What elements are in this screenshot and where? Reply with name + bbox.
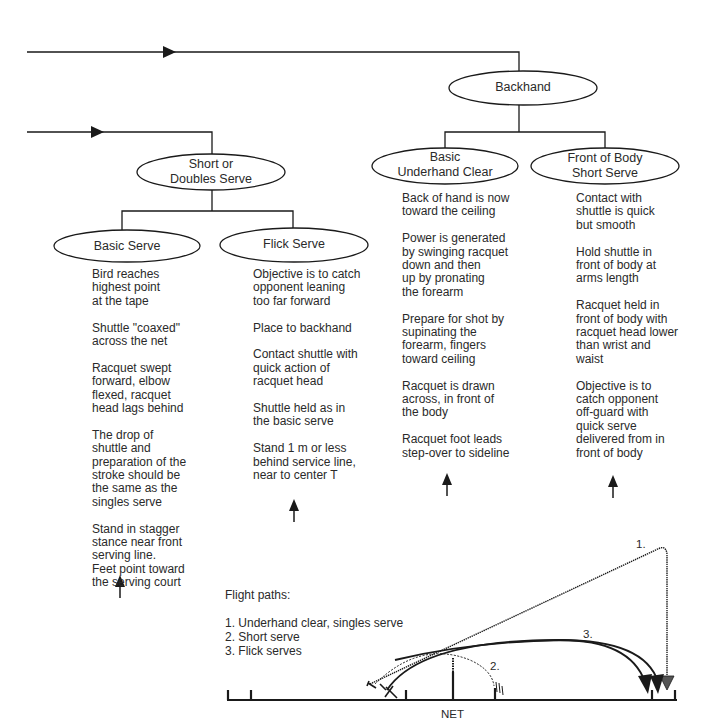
node-backhand: Backhand [450,80,596,95]
flight-path-3-label: 3. [583,628,593,640]
flight-paths-legend: Flight paths: 1. Underhand clear, single… [225,588,403,658]
note: Stand 1 m or less behind service line, n… [253,442,383,482]
flick-serve-notes: Objective is to catch opponent leaning t… [253,268,383,496]
note: Place to backhand [253,322,383,335]
legend-item: 3. Flick serves [225,644,403,658]
net-label: NET [441,708,464,720]
note: Power is generated by swinging racquet d… [402,232,542,299]
note: Racquet is drawn across, in front of the… [402,380,542,420]
note: Objective is to catch opponent off-guard… [576,380,706,460]
node-front-of-body-short-serve: Front of Body Short Serve [531,151,679,181]
note: Prepare for shot by supinating the forea… [402,313,542,367]
note: Racquet held in front of body with racqu… [576,299,706,366]
flight-path-1-label: 1. [636,538,646,550]
flow-arrow-icon [163,46,176,58]
basic-serve-notes: Bird reaches highest point at the tape S… [92,268,242,603]
node-basic-serve: Basic Serve [54,239,200,254]
note: Bird reaches highest point at the tape [92,268,242,308]
note: Objective is to catch opponent leaning t… [253,268,383,308]
flight-path-2 [375,654,503,695]
note: Back of hand is now toward the ceiling [402,192,542,219]
up-arrow-icon [608,475,618,498]
node-short-or-doubles-serve: Short or Doubles Serve [137,157,285,187]
note: Shuttle "coaxed" across the net [92,322,242,349]
underhand-clear-notes: Back of hand is now toward the ceiling P… [402,192,542,473]
flight-path-2-label: 2. [490,660,500,672]
backhand-branch [445,132,605,148]
node-basic-underhand-clear: Basic Underhand Clear [372,150,518,180]
note: Contact with shuttle is quick but smooth [576,192,706,232]
arrowhead-icon [638,674,652,694]
legend-item: 2. Short serve [225,630,403,644]
up-arrow-icon [289,499,299,522]
flow-arrow-icon [91,126,104,138]
connector-to-short-serve [27,132,212,155]
note: Stand in stagger stance near front servi… [92,523,242,590]
flight-path-3 [387,640,658,690]
legend-title: Flight paths: [225,588,403,602]
node-flick-serve: Flick Serve [220,237,368,252]
note: Hold shuttle in front of body at arms le… [576,246,706,286]
note: Shuttle held as in the basic serve [253,402,383,429]
note: Racquet swept forward, elbow flexed, rac… [92,362,242,416]
note: Contact shuttle with quick action of rac… [253,348,383,388]
connector-to-backhand [27,52,519,71]
note: Racquet foot leads step-over to sideline [402,433,542,460]
flight-path-1 [370,548,674,690]
front-of-body-notes: Contact with shuttle is quick but smooth… [576,192,706,473]
legend-item: 1. Underhand clear, singles serve [225,616,403,630]
up-arrow-icon [442,473,452,496]
note: The drop of shuttle and preparation of t… [92,429,242,509]
short-serve-branch [122,211,293,230]
